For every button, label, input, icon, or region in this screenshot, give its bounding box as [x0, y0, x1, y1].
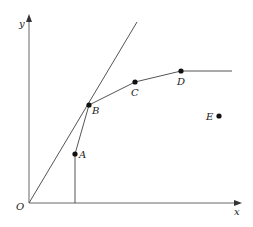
label-e: E [205, 111, 214, 122]
point-c [132, 79, 137, 84]
segment-a-b [75, 105, 89, 154]
diagram-canvas: y x O A B C D E [0, 0, 253, 227]
label-c: C [131, 87, 139, 98]
label-a: A [78, 149, 86, 160]
point-d [178, 68, 183, 73]
x-axis-label: x [234, 206, 240, 217]
label-d: D [176, 76, 185, 87]
y-axis-arrow-icon [26, 14, 32, 22]
point-e [216, 113, 221, 118]
origin-label: O [16, 201, 24, 212]
curve-b-c-d [89, 71, 232, 105]
label-b: B [91, 105, 99, 116]
ray-from-origin [29, 22, 137, 203]
point-b [86, 102, 91, 107]
y-axis-label: y [18, 18, 25, 29]
point-a [72, 151, 77, 156]
